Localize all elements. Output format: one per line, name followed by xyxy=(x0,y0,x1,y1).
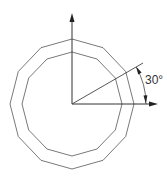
polygon-angle-diagram: 30° xyxy=(0,0,167,177)
arrowhead-up-icon xyxy=(70,13,75,22)
arc-arrowhead-top-icon xyxy=(136,67,141,75)
arc-arrowhead-bottom-icon xyxy=(144,95,148,103)
angle-label: 30° xyxy=(145,73,163,87)
arrowhead-right-icon xyxy=(149,102,158,107)
